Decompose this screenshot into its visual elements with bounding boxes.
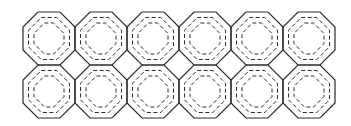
- dashed-octagon-inner: [294, 76, 324, 107]
- dashed-octagon-outer: [81, 71, 122, 113]
- octagon-outline: [23, 12, 75, 65]
- octagon-outline: [127, 65, 179, 118]
- dashed-octagon-outer: [29, 71, 70, 113]
- dashed-octagon-outer: [29, 18, 70, 60]
- octagon-outline: [231, 65, 283, 118]
- octagon-outline: [283, 65, 335, 118]
- octagon-outline: [127, 12, 179, 65]
- octagon-outline: [23, 65, 75, 118]
- octagon-outline: [75, 65, 127, 118]
- octagon-outline: [179, 12, 231, 65]
- dashed-octagon-inner: [242, 23, 272, 54]
- dashed-octagon-outer: [81, 18, 122, 60]
- dashed-octagon-inner: [138, 76, 168, 107]
- dashed-octagon-inner: [242, 76, 272, 107]
- dashed-octagon-inner: [86, 76, 116, 107]
- dashed-octagon-outer: [185, 18, 226, 60]
- dashed-octagon-inner: [138, 23, 168, 54]
- octagon-tile: [23, 12, 75, 65]
- dashed-octagon-inner: [294, 23, 324, 54]
- dashed-octagon-outer: [133, 18, 174, 60]
- dashed-octagon-inner: [190, 76, 220, 107]
- dashed-octagon-inner: [34, 23, 64, 54]
- octagon-outline: [75, 12, 127, 65]
- octagon-outline: [179, 65, 231, 118]
- dashed-octagon-outer: [133, 71, 174, 113]
- octagon-outline: [283, 12, 335, 65]
- octagon-tile: [23, 65, 75, 118]
- octagon-tile: [75, 12, 127, 65]
- dashed-octagon-outer: [185, 71, 226, 113]
- dashed-octagon-outer: [289, 71, 330, 113]
- octagon-tile: [283, 12, 335, 65]
- dashed-octagon-inner: [86, 23, 116, 54]
- octagon-tile: [179, 12, 231, 65]
- octagon-tile: [127, 12, 179, 65]
- octagon-tile: [231, 12, 283, 65]
- dashed-octagon-outer: [289, 18, 330, 60]
- dashed-octagon-outer: [237, 71, 278, 113]
- dashed-octagon-inner: [34, 76, 64, 107]
- octagon-tiles: [23, 12, 335, 118]
- octagon-tile: [75, 65, 127, 118]
- octagon-tessellation-diagram: [0, 0, 351, 126]
- octagon-tile: [127, 65, 179, 118]
- dashed-octagon-inner: [190, 23, 220, 54]
- octagon-tile: [283, 65, 335, 118]
- octagon-tile: [231, 65, 283, 118]
- octagon-tile: [179, 65, 231, 118]
- dashed-octagon-outer: [237, 18, 278, 60]
- octagon-outline: [231, 12, 283, 65]
